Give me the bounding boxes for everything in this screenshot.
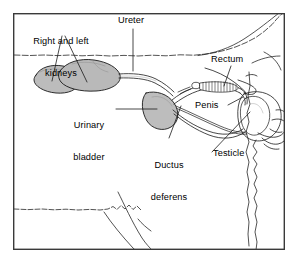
label-ureter: Ureter bbox=[118, 15, 166, 26]
label-ductus-deferens-line2: deferens bbox=[139, 192, 199, 203]
label-kidneys-line1: Right and left bbox=[18, 36, 104, 47]
label-kidneys-line2: kidneys bbox=[18, 68, 104, 79]
label-ductus-deferens-line1: Ductus bbox=[139, 160, 199, 171]
label-ductus-deferens: Ductus deferens bbox=[139, 139, 199, 223]
label-urinary-bladder-line2: bladder bbox=[62, 152, 116, 163]
label-testicle: Testicle bbox=[213, 148, 263, 159]
label-urinary-bladder: Urinary bladder bbox=[62, 99, 116, 183]
label-rectum: Rectum bbox=[211, 54, 259, 65]
label-kidneys: Right and left kidneys bbox=[18, 15, 104, 99]
anatomy-figure: Right and left kidneys Ureter Rectum Uri… bbox=[0, 0, 298, 261]
label-penis: Penis bbox=[195, 100, 231, 111]
label-urinary-bladder-line1: Urinary bbox=[62, 120, 116, 131]
